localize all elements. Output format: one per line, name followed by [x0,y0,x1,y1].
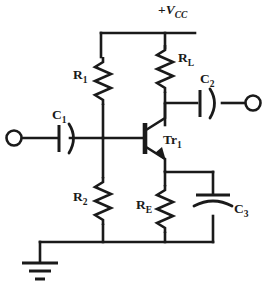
label-rl: RL [178,50,194,68]
resistor-r2 [95,177,111,242]
resistor-re [157,185,173,242]
input-terminal[interactable] [7,131,22,146]
resistor-r1 [95,57,111,138]
c2-letter: C [200,71,210,86]
base-bias-network [70,138,144,177]
vcc-prefix: + [158,2,166,17]
c3-subscript: 3 [244,209,249,219]
capacitor-c2 [200,89,215,118]
c3-curved-plate [194,201,232,206]
c2-subscript: 2 [210,79,215,89]
rl-letter: R [178,50,188,65]
tr1-collector-lead [146,103,165,130]
ground-symbol [22,263,58,279]
re-letter: R [136,197,146,212]
rl-zigzag [157,45,173,93]
r2-letter: R [73,189,83,204]
label-c2: C2 [200,71,215,89]
capacitor-c1 [22,124,74,153]
rl-subscript: L [188,58,194,68]
circuit-diagram: +VCC R1 RL C2 C1 Tr1 R2 RE C3 [0,0,266,288]
r2-subscript: 2 [83,197,88,207]
r1-subscript: 1 [83,75,88,85]
vcc-subscript: CC [175,10,188,20]
tr1-letters: Tr [163,132,177,147]
c1-subscript: 1 [62,115,67,125]
label-vcc: +VCC [158,2,188,20]
label-tr1: Tr1 [163,132,182,150]
c3-letter: C [234,201,244,216]
r2-zigzag [95,177,111,225]
c1-letter: C [52,107,62,122]
c2-curved-plate [210,89,215,118]
label-c3: C3 [234,201,249,219]
capacitor-c3 [194,195,232,206]
output-terminal[interactable] [246,96,261,111]
r1-zigzag [95,57,111,105]
emitter-network [165,172,213,242]
label-re: RE [136,197,152,215]
re-subscript: E [146,205,152,215]
label-r1: R1 [73,67,88,85]
tr1-emitter-arrow [155,147,166,161]
r1-letter: R [73,67,83,82]
tr1-subscript: 1 [177,140,182,150]
schematic-canvas: +VCC R1 RL C2 C1 Tr1 R2 RE C3 [0,0,266,288]
label-c1: C1 [52,107,67,125]
re-zigzag [157,185,173,233]
label-r2: R2 [73,189,88,207]
ground-rail-group [40,242,213,262]
